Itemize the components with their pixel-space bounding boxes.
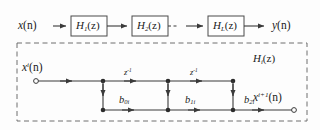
- coefficient-label-b1i: b1i: [185, 95, 195, 106]
- section-output-terminal: [292, 108, 297, 113]
- delay-label-2: z-1: [190, 68, 198, 77]
- cascade-output-label: y(n): [272, 20, 291, 32]
- section-output-label: xi+1(n): [253, 92, 282, 104]
- section-input-label: xi(n): [22, 62, 43, 74]
- section-input-terminal: [34, 79, 39, 84]
- block-label-h2: H2(z): [137, 20, 161, 32]
- delay-label-1: z-1: [124, 68, 132, 77]
- block-label-h1: H1(z): [76, 20, 100, 32]
- coefficient-label-b0i: b0i: [119, 95, 129, 106]
- section-box-label: Hi(z): [253, 53, 275, 65]
- node-bottom-3: [231, 108, 236, 113]
- coefficient-label-b2i: b2i: [244, 95, 254, 106]
- node-bottom-1: [101, 108, 106, 113]
- block-label-hl: HL(z): [213, 20, 237, 32]
- figure-root: x(n) H1(z) H2(z) HL(z) y(n) Hi(z) xi(n) …: [0, 0, 320, 130]
- cascade-input-label: x(n): [18, 20, 37, 32]
- node-bottom-2: [166, 108, 171, 113]
